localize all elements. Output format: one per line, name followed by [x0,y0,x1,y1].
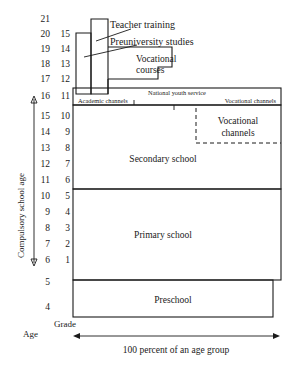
age-tick: 8 [45,223,50,233]
primary-school-label: Primary school [134,230,192,240]
compulsory-school-age-label: Compulsory school age [16,173,26,258]
age-tick: 18 [41,59,51,69]
grade-tick: 2 [65,239,70,249]
age-tick: 11 [41,175,50,185]
vocational-channels-label-line1: Vocational [218,116,259,126]
grade-tick: 8 [65,143,70,153]
bottom-caption: 100 percent of an age group [123,345,230,355]
preuniversity-studies-block [76,33,91,94]
grade-tick: 7 [65,159,70,169]
education-structure-diagram: 21 20 19 18 17 16 15 14 13 12 11 10 9 8 … [0,0,300,372]
grade-tick: 1 [65,255,70,265]
vocational-channels-band-label: Vocational channels [225,97,277,104]
grade-tick: 4 [65,207,70,217]
grade-tick: 15 [61,29,71,39]
age-tick: 10 [41,191,51,201]
preschool-block: Preschool [73,280,273,317]
age-tick: 20 [41,29,51,39]
age-axis-label: Age [23,329,38,339]
teacher-training-block [91,19,108,94]
preuniversity-studies-label: Preuniversity studies [110,36,194,47]
age-tick: 7 [45,239,50,249]
teacher-training-label: Teacher training [110,19,175,30]
national-youth-service-block: National youth service Academic channels… [73,88,281,110]
bottom-axis: Grade Age 100 percent of an age group [23,319,280,355]
age-tick: 16 [41,91,51,101]
compulsory-school-age-indicator: Compulsory school age [16,96,37,266]
vocational-courses-block: Vocational courses [108,47,177,94]
age-tick: 19 [41,44,51,54]
grade-tick: 14 [61,44,71,54]
preuniversity-studies-box [76,33,91,94]
age-tick: 12 [41,159,51,169]
age-tick: 9 [45,207,50,217]
primary-school-block: Primary school [73,189,281,280]
grade-tick: 10 [61,111,71,121]
age-tick: 14 [41,127,51,137]
grade-tick: 13 [61,59,71,69]
grade-tick: 12 [61,74,71,84]
age-axis-ticks: 21 20 19 18 17 16 15 14 13 12 11 10 9 8 … [41,14,51,312]
vocational-courses-label-line1: Vocational [136,54,177,64]
grade-tick: 5 [65,191,70,201]
age-tick: 4 [45,302,50,312]
vocational-channels-block: Vocational channels [196,108,281,143]
national-youth-service-label: National youth service [148,89,206,96]
arrow-head-right-icon [273,333,280,339]
age-tick: 21 [41,14,51,24]
grade-tick: 3 [65,223,70,233]
age-tick: 6 [45,255,50,265]
grade-tick: 9 [65,127,70,137]
teacher-training-box [91,19,108,94]
age-tick: 17 [41,74,51,84]
age-tick: 5 [45,277,50,287]
grade-axis-ticks: 15 14 13 12 11 10 9 8 7 6 5 4 3 2 1 [61,29,71,265]
vocational-courses-label-line2: courses [136,65,165,75]
preschool-label: Preschool [154,295,192,305]
age-tick: 15 [41,111,51,121]
age-tick: 13 [41,143,51,153]
grade-axis-label: Grade [54,319,76,329]
academic-channels-label: Academic channels [78,97,128,104]
secondary-school-label: Secondary school [129,154,197,164]
arrow-head-left-icon [73,333,80,339]
grade-tick: 6 [65,175,70,185]
vocational-channels-label-line2: channels [221,128,255,138]
grade-tick: 11 [61,91,70,101]
